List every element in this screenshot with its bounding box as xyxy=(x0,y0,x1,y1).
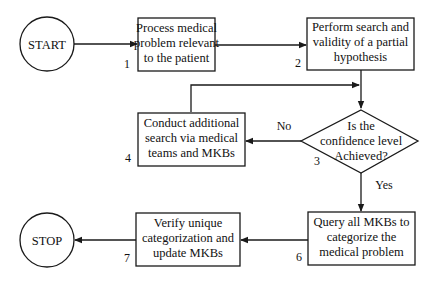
step2-number: 2 xyxy=(295,56,301,70)
step7-line-2: categorization and xyxy=(142,231,235,245)
step2-line-2: validity of a partial xyxy=(313,35,409,49)
step6-line-1: Query all MKBs to xyxy=(313,215,409,229)
step3-number: 3 xyxy=(314,154,320,168)
step4-line-3: teams and MKBs xyxy=(148,146,235,160)
step2-line-3: hypothesis xyxy=(334,50,388,64)
step4-number: 4 xyxy=(125,151,131,165)
step1-node: Process medical problem relevant to the … xyxy=(134,18,220,71)
step6-line-2: categorize the xyxy=(327,230,397,244)
step3-decision: Is the confidence level Achieved? 3 xyxy=(301,110,418,173)
step1-line-3: to the patient xyxy=(144,51,210,65)
step4-line-2: search via medical xyxy=(145,131,239,145)
step3-line-2: confidence level xyxy=(320,134,403,148)
step7-line-1: Verify unique xyxy=(154,216,223,230)
step7-line-3: update MKBs xyxy=(153,246,223,260)
yes-label: Yes xyxy=(375,178,393,192)
step2-line-1: Perform search and xyxy=(312,20,410,34)
step1-number: 1 xyxy=(124,57,130,71)
step3-line-1: Is the xyxy=(347,119,375,133)
no-label: No xyxy=(277,119,292,133)
stop-label: STOP xyxy=(32,234,62,248)
start-label: START xyxy=(28,38,66,52)
stop-node: STOP xyxy=(20,213,74,267)
step6-node: Query all MKBs to categorize the medical… xyxy=(296,212,415,265)
step4-node: Conduct additional search via medical te… xyxy=(125,113,245,166)
step1-line-1: Process medical xyxy=(136,21,217,35)
start-node: START xyxy=(20,17,74,71)
step6-number: 6 xyxy=(296,250,302,264)
step7-number: 7 xyxy=(124,251,130,265)
edge-step4-loop-back xyxy=(191,85,359,112)
step2-node: Perform search and validity of a partial… xyxy=(307,18,414,70)
step3-line-3: Achieved? xyxy=(334,149,388,163)
step7-node: Verify unique categorization and update … xyxy=(124,213,240,266)
step1-line-2: problem relevant xyxy=(134,36,220,50)
step4-line-1: Conduct additional xyxy=(144,116,240,130)
flowchart: START 1 Process medical problem relevant… xyxy=(0,0,434,283)
step6-line-3: medical problem xyxy=(319,245,404,259)
